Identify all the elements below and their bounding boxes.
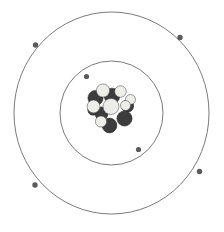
electron-inner-shell-1 <box>84 74 89 79</box>
proton-6 <box>121 101 131 111</box>
electron-outer-shell-5 <box>32 182 37 187</box>
proton-1 <box>96 84 109 97</box>
electron-outer-shell-3 <box>33 42 38 47</box>
electron-inner-shell-2 <box>136 147 141 152</box>
nucleus <box>87 84 135 133</box>
proton-7 <box>95 116 106 127</box>
proton-4 <box>87 100 100 113</box>
electron-outer-shell-6 <box>197 169 202 174</box>
atom-diagram <box>0 0 224 232</box>
proton-5 <box>103 99 119 115</box>
electron-outer-shell-4 <box>177 35 182 40</box>
proton-2 <box>115 86 127 98</box>
atom-diagram-canvas <box>0 0 224 232</box>
neutron-5 <box>117 111 132 126</box>
